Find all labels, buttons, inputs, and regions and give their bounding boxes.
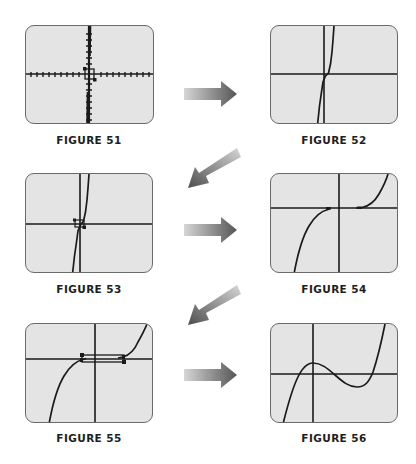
calculator-screen-55: [25, 323, 153, 423]
graph-53: [26, 174, 153, 273]
arrow-down-left-icon: [187, 146, 241, 192]
figure-label-56: FIGURE 56: [270, 432, 398, 444]
arrow-right-icon: [184, 361, 238, 389]
figure-label-55: FIGURE 55: [25, 432, 153, 444]
graph-52: [271, 26, 398, 124]
figure-label-53: FIGURE 53: [25, 283, 153, 295]
arrow-down-left-icon: [187, 283, 241, 329]
function-curve: [318, 26, 335, 124]
graph-54: [271, 174, 398, 273]
graph-56: [271, 324, 398, 423]
arrow-right-icon: [184, 80, 238, 108]
graph-51: [26, 26, 154, 124]
figure-label-54: FIGURE 54: [270, 283, 398, 295]
calculator-screen-56: [270, 323, 398, 423]
graph-55: [26, 324, 153, 423]
function-curve-left: [294, 209, 330, 274]
arrow-right-icon: [184, 216, 238, 244]
calculator-screen-53: [25, 173, 153, 273]
calculator-screen-52: [270, 25, 398, 124]
calculator-screen-54: [270, 173, 398, 273]
function-curve-right: [356, 174, 388, 208]
calculator-screen-51: [25, 25, 154, 124]
figure-label-51: FIGURE 51: [25, 134, 153, 146]
figure-label-52: FIGURE 52: [270, 134, 398, 146]
